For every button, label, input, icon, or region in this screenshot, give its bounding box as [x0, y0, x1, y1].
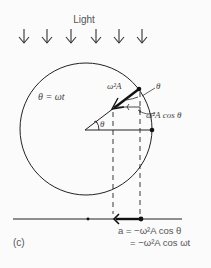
panel-label: (c)	[13, 237, 25, 248]
projected-particle-dot	[139, 217, 144, 222]
equation-line-2: = −ω²A cos ωt	[130, 237, 191, 248]
light-arrows	[19, 29, 147, 43]
down-arrow-icon	[137, 29, 147, 43]
theta-definition: θ = ωt	[38, 91, 65, 102]
origin-dot	[87, 218, 90, 221]
diagram-canvas: Light θ = ωt θ ω²A θ ω²A cos θ a = −ω²A …	[0, 0, 211, 268]
light-label: Light	[73, 14, 95, 25]
reference-point	[150, 128, 155, 133]
theta-leader	[142, 88, 155, 96]
down-arrow-icon	[114, 29, 124, 43]
vector-label: ω²A	[107, 81, 122, 91]
theta-center-label: θ	[100, 119, 105, 129]
down-arrow-icon	[66, 29, 76, 43]
down-arrow-icon	[42, 29, 52, 43]
reference-circle-diagram: Light θ = ωt θ ω²A θ ω²A cos θ a = −ω²A …	[0, 0, 211, 268]
down-arrow-icon	[91, 29, 101, 43]
theta-top-label: θ	[156, 81, 161, 91]
component-label: ω²A cos θ	[146, 110, 182, 120]
equation-line-1: a = −ω²A cos θ	[118, 225, 181, 236]
down-arrow-icon	[19, 29, 29, 43]
particle-dot	[137, 87, 142, 92]
